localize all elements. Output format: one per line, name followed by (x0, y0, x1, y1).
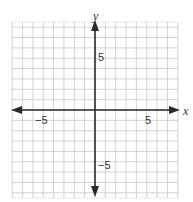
x-axis-left-arrow-icon (11, 106, 22, 114)
x-tick-label-neg5: −5 (35, 114, 48, 126)
y-tick-label-5: 5 (98, 51, 104, 63)
coordinate-plane: y x −5 5 5 −5 (0, 0, 193, 202)
x-axis-right-arrow-icon (169, 106, 180, 114)
x-tick-label-5: 5 (145, 114, 151, 126)
y-axis-label: y (92, 9, 99, 23)
x-axis-label: x (182, 104, 189, 118)
y-axis-bottom-arrow-icon (91, 186, 99, 197)
y-tick-label-neg5: −5 (98, 159, 111, 171)
